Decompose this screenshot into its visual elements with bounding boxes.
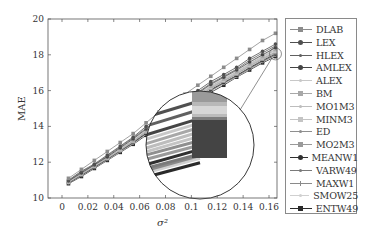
legend-item-varw49: VARW49 xyxy=(286,164,358,177)
legend-label: SMOW25 xyxy=(313,190,358,201)
legend-item-mo2m3: MO2M3 xyxy=(286,138,358,151)
legend-item-smow25: SMOW25 xyxy=(286,189,358,202)
x-tick-label: 0.12 xyxy=(207,202,227,212)
legend-label: MO1M3 xyxy=(316,101,354,112)
dot-marker-icon xyxy=(290,100,312,113)
legend: DLABLEXHLEXAMLEXALEXBMMO1M3MINM3EDMO2M3M… xyxy=(285,18,357,214)
legend-item-dlab: DLAB xyxy=(286,23,358,36)
legend-item-meanw1: MEANW1 xyxy=(286,151,358,164)
circle-marker-icon xyxy=(290,61,312,74)
dot-marker-icon xyxy=(290,164,312,177)
legend-label: BM xyxy=(316,88,332,99)
circle-marker-icon xyxy=(290,36,312,49)
legend-label: MINM3 xyxy=(316,114,353,125)
plus-marker-icon xyxy=(290,177,312,190)
legend-item-bm: BM xyxy=(286,87,358,100)
legend-item-maxw1: MAXW1 xyxy=(286,177,358,190)
legend-label: AMLEX xyxy=(316,62,352,73)
y-tick-label: 18 xyxy=(33,50,45,60)
x-tick-label: 0.06 xyxy=(130,202,150,212)
legend-label: ED xyxy=(316,126,330,137)
plot-area xyxy=(67,32,282,199)
x-tick-label: 0.14 xyxy=(233,202,253,212)
legend-label: DLAB xyxy=(316,24,343,35)
legend-item-minm3: MINM3 xyxy=(286,113,358,126)
y-axis-label: MAE xyxy=(16,96,27,121)
x-tick-label: 0.1 xyxy=(184,202,198,212)
x-tick-label: 0.16 xyxy=(259,202,279,212)
legend-label: HLEX xyxy=(316,50,344,61)
square-marker-icon xyxy=(290,23,312,36)
dot-marker-icon xyxy=(290,49,312,62)
legend-item-amlex: AMLEX xyxy=(286,61,358,74)
legend-item-alex: ALEX xyxy=(286,74,358,87)
dot-marker-icon xyxy=(290,125,312,138)
legend-label: LEX xyxy=(316,37,335,48)
zoom-inset xyxy=(84,48,282,199)
y-tick-label: 14 xyxy=(33,121,45,131)
legend-item-entw49: ENTW49 xyxy=(286,202,358,215)
x-tick-label: 0.04 xyxy=(104,202,124,212)
dot-marker-icon xyxy=(290,189,309,202)
square-marker-icon xyxy=(290,202,312,215)
legend-label: MAXW1 xyxy=(316,178,354,189)
y-tick-label: 16 xyxy=(33,86,45,96)
legend-item-ed: ED xyxy=(286,125,358,138)
legend-item-lex: LEX xyxy=(286,36,358,49)
legend-item-mo1m3: MO1M3 xyxy=(286,100,358,113)
legend-label: ENTW49 xyxy=(316,203,358,214)
legend-label: MEANW1 xyxy=(312,152,358,163)
y-tick-label: 10 xyxy=(33,193,45,203)
legend-label: VARW49 xyxy=(316,165,357,176)
x-tick-label: 0 xyxy=(59,202,65,212)
y-tick-label: 20 xyxy=(33,14,45,24)
square-marker-icon xyxy=(290,87,312,100)
square-marker-icon xyxy=(290,138,312,151)
legend-label: MO2M3 xyxy=(316,139,354,150)
x-tick-label: 0.02 xyxy=(78,202,98,212)
x-tick-label: 0.08 xyxy=(155,202,175,212)
legend-label: ALEX xyxy=(316,75,342,86)
square-marker-icon xyxy=(290,113,312,126)
legend-item-hlex: HLEX xyxy=(286,49,358,62)
y-tick-label: 12 xyxy=(33,157,44,167)
dot-marker-icon xyxy=(290,74,312,87)
circle-marker-icon xyxy=(290,151,308,164)
x-axis-label: σ² xyxy=(157,217,168,228)
